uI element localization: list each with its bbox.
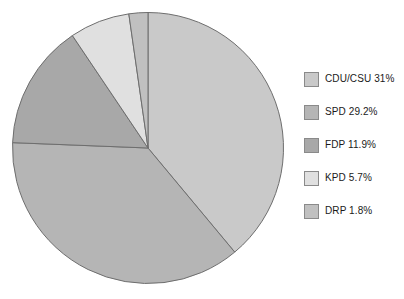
legend-item[interactable]: KPD 5.7% bbox=[304, 169, 404, 187]
legend-item-label: KPD 5.7% bbox=[325, 172, 372, 184]
legend-item[interactable]: SPD 29.2% bbox=[304, 103, 404, 121]
legend-swatch-icon bbox=[304, 171, 319, 186]
pie-chart: CDU/CSU 31%SPD 29.2%FDP 11.9%KPD 5.7%DRP… bbox=[0, 0, 404, 299]
pie-plot-area bbox=[0, 0, 300, 299]
chart-legend: CDU/CSU 31%SPD 29.2%FDP 11.9%KPD 5.7%DRP… bbox=[304, 70, 404, 235]
legend-item-label: FDP 11.9% bbox=[325, 139, 376, 151]
pie-slice-group bbox=[13, 13, 284, 284]
legend-item[interactable]: DRP 1.8% bbox=[304, 202, 404, 220]
pie-svg bbox=[0, 0, 300, 299]
legend-item[interactable]: CDU/CSU 31% bbox=[304, 70, 404, 88]
legend-item-label: CDU/CSU 31% bbox=[325, 73, 394, 85]
legend-swatch-icon bbox=[304, 72, 319, 87]
legend-swatch-icon bbox=[304, 204, 319, 219]
legend-item[interactable]: FDP 11.9% bbox=[304, 136, 404, 154]
legend-item-label: DRP 1.8% bbox=[325, 205, 372, 217]
legend-swatch-icon bbox=[304, 105, 319, 120]
legend-swatch-icon bbox=[304, 138, 319, 153]
legend-item-label: SPD 29.2% bbox=[325, 106, 378, 118]
